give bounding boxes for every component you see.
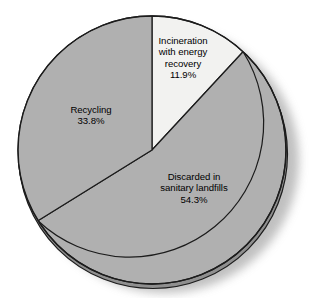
pie-chart: Incineration with energy recovery 11.9% … (0, 0, 312, 298)
slice-label-landfills-line1: Discarded in (142, 171, 246, 182)
slice-value-incineration: 11.9% (145, 69, 221, 80)
slice-label-landfills-line2: sanitary landfills (142, 182, 246, 193)
slice-label-recycling: Recycling 33.8% (52, 104, 130, 127)
slice-label-incineration-line3: recovery (145, 58, 221, 69)
slice-label-incineration-line2: with energy (145, 46, 221, 57)
slice-label-landfills: Discarded in sanitary landfills 54.3% (142, 171, 246, 205)
slice-value-landfills: 54.3% (142, 194, 246, 205)
slice-value-recycling: 33.8% (52, 115, 130, 126)
slice-label-recycling-line1: Recycling (52, 104, 130, 115)
slice-label-incineration-line1: Incineration (145, 35, 221, 46)
slice-label-incineration: Incineration with energy recovery 11.9% (145, 35, 221, 81)
